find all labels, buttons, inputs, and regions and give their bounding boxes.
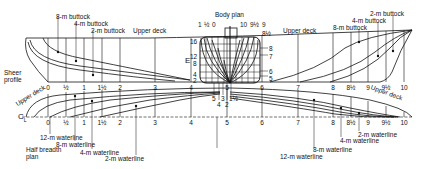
body-station-1-label: 1 xyxy=(198,21,202,28)
sheer-profile-label: Sheer profile xyxy=(4,69,32,83)
sheer-station-tick: ½ xyxy=(63,84,68,91)
sheer-station-tick: 8½ xyxy=(346,84,355,91)
hb-station-tick: 8½ xyxy=(346,119,355,126)
hb-station-tick: 1½ xyxy=(97,119,106,126)
fwd-4m-buttock-label: 4-m buttock xyxy=(352,17,386,24)
sheer-station-tick: 8 xyxy=(331,84,335,91)
body-station-5-label: 5 xyxy=(269,75,273,82)
aft-4m-buttock-label: 4-m buttock xyxy=(74,20,108,27)
hb-station-tick: 2 xyxy=(118,119,122,126)
sheer-station-tick: 6 xyxy=(260,84,264,91)
lines-plan-diagram: 8-m buttock 4-m buttock 2-m buttock Uppe… xyxy=(0,0,435,169)
fwd-4m-waterline-label: 4-m waterline xyxy=(340,137,379,144)
aft-12m-waterline-label: 12-m waterline xyxy=(40,134,83,141)
hb-station-tick: 9½ xyxy=(381,119,390,126)
waterline-8-label: 8 xyxy=(193,60,197,67)
fwd-12m-waterline-label: 12-m waterline xyxy=(280,153,323,160)
centerline-symbol: CL xyxy=(18,113,27,124)
waterline-12-label: 12 xyxy=(190,53,197,60)
hb-station-tick: 10 xyxy=(400,119,407,126)
sheer-upper-deck-aft-label: Upper deck xyxy=(133,27,166,34)
sheer-station-tick: 1 xyxy=(82,84,86,91)
aft-8m-waterline-label: 8-m waterline xyxy=(56,141,95,148)
aft-2m-buttock-label: 2-m buttock xyxy=(91,27,125,34)
body-bottom-2-label: 2 xyxy=(225,101,229,108)
body-plan-label: Body plan xyxy=(215,11,244,18)
body-station-8half-label: 8½ xyxy=(262,30,271,37)
sheer-station-tick: 0 xyxy=(46,84,50,91)
aft-2m-waterline-label: 2-m waterline xyxy=(105,155,144,162)
body-station-10-label: 10 xyxy=(240,21,247,28)
hb-station-tick: ½ xyxy=(63,119,68,126)
sheer-station-tick: 7 xyxy=(296,84,300,91)
waterline-16-label: 16 xyxy=(190,38,197,45)
body-bottom-1half-label: 1½ xyxy=(229,95,238,102)
body-station-0-label: 0 xyxy=(212,21,216,28)
fwd-2m-buttock-label: 2-m buttock xyxy=(370,10,404,17)
half-breadth-plan-label: Half breadth plan xyxy=(26,146,61,160)
hb-station-tick: 1 xyxy=(82,119,86,126)
sheer-station-tick: 5 xyxy=(225,84,229,91)
body-bottom-5-label: 5 xyxy=(212,95,216,102)
sheer-upper-deck-fwd-label: Upper deck xyxy=(283,27,316,34)
aft-8m-buttock-label: 8-m buttock xyxy=(56,13,90,20)
sheer-station-tick: 1½ xyxy=(97,84,106,91)
hb-station-tick: 5 xyxy=(225,119,229,126)
fwd-8m-waterline-label: 8-m waterline xyxy=(313,146,352,153)
hb-station-tick: 3 xyxy=(153,119,157,126)
sheer-station-tick: 3 xyxy=(153,84,157,91)
hb-station-tick: 9 xyxy=(366,119,370,126)
sheer-station-tick: 10 xyxy=(400,84,407,91)
sheer-station-tick: 4 xyxy=(189,84,193,91)
waterline-2-label: 2 xyxy=(193,77,197,84)
hb-station-tick: 7 xyxy=(296,119,300,126)
body-station-9-label: 9 xyxy=(262,21,266,28)
body-plan-side-label: E xyxy=(185,57,190,64)
body-station-6-label: 6 xyxy=(269,68,273,75)
body-station-half-label: ½ xyxy=(204,21,209,28)
hb-station-tick: 0 xyxy=(46,119,50,126)
sheer-station-tick: 2 xyxy=(118,84,122,91)
body-bottom-4-label: 4 xyxy=(217,101,221,108)
hb-station-tick: 6 xyxy=(260,119,264,126)
hb-station-tick: 8 xyxy=(331,119,335,126)
body-station-7-label: 7 xyxy=(269,53,273,60)
hb-station-tick: 4 xyxy=(189,119,193,126)
body-station-9half-label: 9½ xyxy=(250,21,259,28)
fwd-8m-buttock-label: 8-m buttock xyxy=(333,24,367,31)
body-station-8-label: 8 xyxy=(269,45,273,52)
